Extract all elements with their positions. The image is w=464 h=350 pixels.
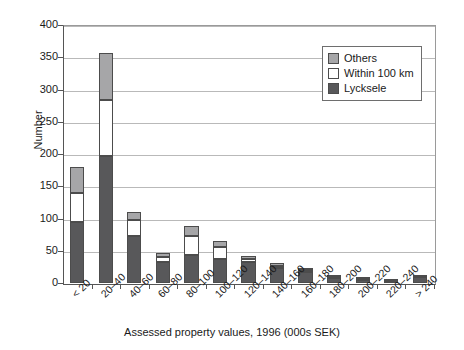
bar-stack xyxy=(270,25,284,283)
bar-segment xyxy=(127,236,141,283)
y-axis-tick-label: 100 xyxy=(28,213,58,224)
y-axis-tick-label: 150 xyxy=(28,180,58,191)
bar-segment xyxy=(99,156,113,283)
legend-item-label: Others xyxy=(344,53,377,64)
bar-segment xyxy=(127,220,141,236)
bar-stack xyxy=(184,25,198,283)
legend-swatch-icon xyxy=(328,68,339,79)
legend-swatch-icon xyxy=(328,83,339,94)
bar-segment xyxy=(241,256,255,259)
y-axis-tick-label: 350 xyxy=(28,51,58,62)
bar-segment xyxy=(99,53,113,99)
legend-item-label: Within 100 km xyxy=(344,68,414,79)
bar-chart: Number 050100150200250300350400 < 2020–4… xyxy=(0,0,464,350)
legend-swatch-icon xyxy=(328,53,339,64)
bar-segment xyxy=(127,212,141,220)
bar-stack xyxy=(99,25,113,283)
y-axis-tick-label: 200 xyxy=(28,148,58,159)
bar-stack xyxy=(298,25,312,283)
y-axis-tick-label: 50 xyxy=(28,245,58,256)
bar-segment xyxy=(70,193,84,222)
bar-stack xyxy=(213,25,227,283)
legend-item: Lycksele xyxy=(328,81,414,96)
bar-stack xyxy=(156,25,170,283)
y-axis-tick-label: 250 xyxy=(28,116,58,127)
y-axis-tick-label: 400 xyxy=(28,19,58,30)
bar-segment xyxy=(70,222,84,283)
bar-stack xyxy=(70,25,84,283)
bar-stack xyxy=(127,25,141,283)
bar-segment xyxy=(156,257,170,262)
bar-stack xyxy=(241,25,255,283)
bar-segment xyxy=(70,167,84,193)
bar-segment xyxy=(156,253,170,258)
bar-segment xyxy=(213,247,227,259)
chart-legend: OthersWithin 100 kmLycksele xyxy=(322,46,422,101)
legend-item: Others xyxy=(328,51,414,66)
bar-segment xyxy=(184,236,198,255)
bar-segment xyxy=(213,241,227,247)
y-axis-tick-label: 300 xyxy=(28,84,58,95)
bar-segment xyxy=(241,259,255,262)
bar-segment xyxy=(99,100,113,156)
bar-segment xyxy=(184,226,198,236)
y-axis-tick-label: 0 xyxy=(28,277,58,288)
legend-item: Within 100 km xyxy=(328,66,414,81)
legend-item-label: Lycksele xyxy=(344,83,386,94)
x-axis-title: Assessed property values, 1996 (000s SEK… xyxy=(0,326,464,338)
